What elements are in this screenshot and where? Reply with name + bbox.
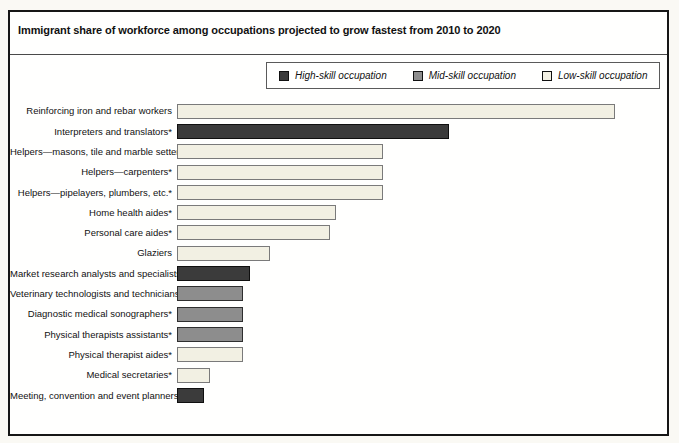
chart-row: Veterinary technologists and technicians…: [10, 284, 667, 304]
category-label: Diagnostic medical sonographers*: [10, 309, 177, 319]
bar-track: [177, 388, 655, 403]
chart-row: Home health aides*: [10, 202, 667, 222]
bar-low-skill: [177, 165, 383, 180]
bar-high-skill: [177, 124, 449, 139]
category-label: Helpers—carpenters*: [10, 167, 177, 177]
chart-row: Diagnostic medical sonographers*: [10, 304, 667, 324]
category-label: Market research analysts and specialists…: [10, 269, 177, 279]
legend-item: Low-skill occupation: [542, 70, 648, 81]
legend-swatch-mid-icon: [413, 71, 423, 81]
bar-low-skill: [177, 205, 336, 220]
bar-track: [177, 144, 655, 159]
chart-row: Physical therapists assistants*: [10, 324, 667, 344]
legend-swatch-high-icon: [279, 71, 289, 81]
bar-mid-skill: [177, 286, 243, 301]
bar-chart: Reinforcing iron and rebar workersInterp…: [10, 101, 667, 405]
bar-chart-rows: Reinforcing iron and rebar workersInterp…: [10, 101, 667, 405]
chart-frame: Immigrant share of workforce among occup…: [8, 10, 669, 436]
chart-title: Immigrant share of workforce among occup…: [18, 24, 500, 36]
category-label: Personal care aides*: [10, 228, 177, 238]
legend-item: Mid-skill occupation: [413, 70, 516, 81]
category-label: Medical secretaries*: [10, 370, 177, 380]
bar-track: [177, 347, 655, 362]
bar-track: [177, 104, 655, 119]
category-label: Helpers—masons, tile and marble setters*: [10, 147, 177, 157]
category-label: Physical therapist aides*: [10, 350, 177, 360]
bar-low-skill: [177, 225, 330, 240]
bar-track: [177, 368, 655, 383]
chart-row: Market research analysts and specialists…: [10, 263, 667, 283]
category-label: Glaziers: [10, 248, 177, 258]
bar-mid-skill: [177, 327, 243, 342]
chart-row: Helpers—pipelayers, plumbers, etc.*: [10, 182, 667, 202]
category-label: Home health aides*: [10, 208, 177, 218]
legend-label: High-skill occupation: [295, 70, 387, 81]
chart-row: Glaziers: [10, 243, 667, 263]
category-label: Reinforcing iron and rebar workers: [10, 106, 177, 116]
bar-track: [177, 246, 655, 261]
category-label: Physical therapists assistants*: [10, 330, 177, 340]
bar-low-skill: [177, 144, 383, 159]
bar-low-skill: [177, 347, 243, 362]
chart-row: Interpreters and translators*: [10, 121, 667, 141]
chart-row: Meeting, convention and event planners*: [10, 385, 667, 405]
legend-swatch-low-icon: [542, 71, 552, 81]
bar-track: [177, 205, 655, 220]
bar-track: [177, 165, 655, 180]
category-label: Veterinary technologists and technicians…: [10, 289, 177, 299]
legend-item: High-skill occupation: [279, 70, 387, 81]
legend: High-skill occupationMid-skill occupatio…: [266, 62, 660, 89]
legend-label: Mid-skill occupation: [429, 70, 516, 81]
bar-track: [177, 225, 655, 240]
bar-high-skill: [177, 388, 204, 403]
bar-track: [177, 185, 655, 200]
bar-track: [177, 266, 655, 281]
chart-row: Reinforcing iron and rebar workers: [10, 101, 667, 121]
category-label: Helpers—pipelayers, plumbers, etc.*: [10, 188, 177, 198]
chart-row: Helpers—masons, tile and marble setters*: [10, 142, 667, 162]
chart-row: Physical therapist aides*: [10, 345, 667, 365]
bar-low-skill: [177, 185, 383, 200]
bar-low-skill: [177, 368, 210, 383]
bar-low-skill: [177, 104, 615, 119]
bar-track: [177, 307, 655, 322]
chart-row: Medical secretaries*: [10, 365, 667, 385]
bar-track: [177, 327, 655, 342]
bar-low-skill: [177, 246, 270, 261]
chart-row: Personal care aides*: [10, 223, 667, 243]
chart-header: Immigrant share of workforce among occup…: [10, 12, 667, 55]
chart-row: Helpers—carpenters*: [10, 162, 667, 182]
bar-mid-skill: [177, 307, 243, 322]
category-label: Interpreters and translators*: [10, 127, 177, 137]
bar-track: [177, 286, 655, 301]
legend-label: Low-skill occupation: [558, 70, 648, 81]
category-label: Meeting, convention and event planners*: [10, 391, 177, 401]
bar-high-skill: [177, 266, 250, 281]
bar-track: [177, 124, 655, 139]
